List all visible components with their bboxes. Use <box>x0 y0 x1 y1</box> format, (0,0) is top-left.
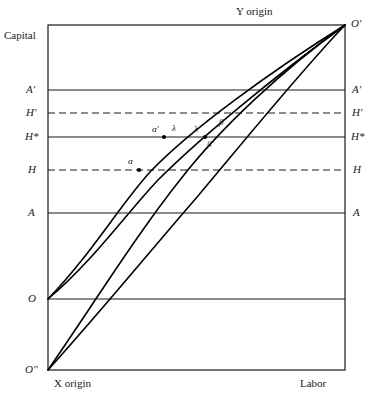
y-origin-label: Y origin <box>236 6 273 17</box>
right-tick-A-prime: A' <box>352 84 361 95</box>
label-beta: β <box>219 118 223 127</box>
right-tick-H-prime: H' <box>352 107 362 118</box>
labor-axis-label: Labor <box>300 378 326 389</box>
point-alpha-prime <box>162 135 166 139</box>
label-alpha-prime: α' <box>152 125 159 134</box>
left-tick-A: A <box>28 207 35 218</box>
right-tick-H-star: H* <box>351 131 364 142</box>
capital-axis-label: Capital <box>4 30 36 41</box>
origin-label-O-prime: O' <box>351 18 361 29</box>
origin-label-O-double-prime: O'' <box>25 364 38 375</box>
diagram-canvas <box>0 0 371 406</box>
label-alpha: α <box>128 157 133 166</box>
curve-O-to-Oprime-upper <box>48 25 345 299</box>
point-alpha <box>137 168 141 172</box>
left-tick-H-prime: H' <box>26 107 36 118</box>
left-tick-H-star: H* <box>25 131 38 142</box>
curve-O-to-Oprime-lower <box>48 25 345 299</box>
edgeworth-box-figure: Capital Labor Y origin X origin O' O'' A… <box>0 0 371 406</box>
curve-Odblprime-to-Oprime-lower <box>48 25 345 370</box>
right-tick-H: H <box>353 164 361 175</box>
left-tick-H: H <box>28 164 36 175</box>
x-origin-label: X origin <box>54 378 91 389</box>
label-beta-prime: β' <box>207 140 213 149</box>
left-tick-A-prime: A' <box>26 84 35 95</box>
label-lambda-left: λ <box>172 124 176 133</box>
right-tick-A: A <box>353 207 360 218</box>
label-lambda-right: λ <box>194 125 198 134</box>
left-tick-O: O <box>28 293 36 304</box>
